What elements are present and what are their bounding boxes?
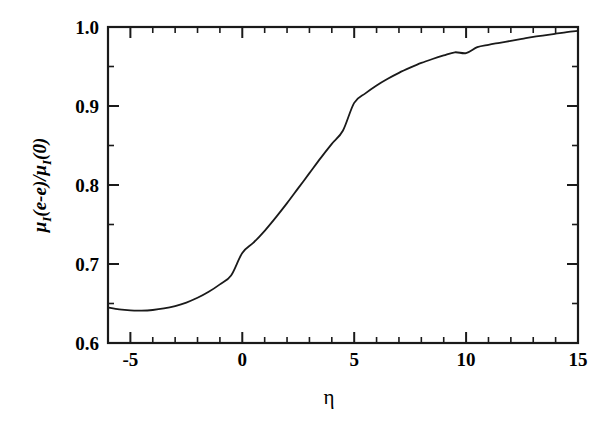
y-tick-label: 0.6 <box>75 333 99 354</box>
x-tick-label: 0 <box>238 349 248 370</box>
x-tick-label: 15 <box>569 349 588 370</box>
y-tick-label: 0.8 <box>75 175 99 196</box>
y-tick-label: 1.0 <box>75 17 99 38</box>
y-tick-label: 0.7 <box>75 254 99 275</box>
y-label-mu2: μ <box>29 165 50 177</box>
svg-text:μI(e-e)/μI(0): μI(e-e)/μI(0) <box>29 138 54 234</box>
figure-panel: -5051015 0.60.70.80.91.0 η μI(e-e)/μI(0) <box>0 0 609 421</box>
plot-border <box>108 27 578 343</box>
data-series-group <box>108 31 578 311</box>
x-tick-label: 5 <box>349 349 359 370</box>
y-label-ee: e-e <box>29 187 50 211</box>
chart-canvas: -5051015 0.60.70.80.91.0 η μI(e-e)/μI(0) <box>0 0 609 421</box>
y-tick-labels: 0.60.70.80.91.0 <box>75 17 99 354</box>
x-axis-title: η <box>324 385 335 409</box>
y-label-mu1: μ <box>29 222 50 234</box>
x-tick-labels: -5051015 <box>122 349 587 370</box>
tick-marks <box>108 27 578 343</box>
axes-frame <box>108 27 578 343</box>
y-tick-label: 0.9 <box>75 96 99 117</box>
x-tick-label: -5 <box>122 349 138 370</box>
y-axis-title: μI(e-e)/μI(0) <box>29 138 54 234</box>
y-label-zero: (0) <box>29 138 51 160</box>
x-tick-label: 10 <box>457 349 476 370</box>
line-series-mu-ratio <box>108 31 578 311</box>
